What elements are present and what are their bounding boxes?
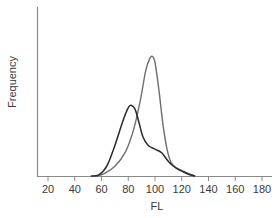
x-tick-label: 20 [42,183,54,195]
y-axis-title: Frequency [6,56,18,108]
x-tick-label: 160 [226,183,244,195]
histogram-chart: 20406080100120140160180 FL Frequency [0,0,279,218]
x-axis-ticks [48,177,262,182]
x-axis-title: FL [151,200,164,212]
series-a-curve [91,105,195,176]
x-tick-label: 100 [146,183,164,195]
x-tick-label: 180 [253,183,271,195]
x-axis-tick-labels: 20406080100120140160180 [42,183,271,195]
x-tick-label: 80 [122,183,134,195]
x-tick-label: 60 [95,183,107,195]
x-tick-label: 40 [69,183,81,195]
x-tick-label: 120 [173,183,191,195]
x-tick-label: 140 [199,183,217,195]
